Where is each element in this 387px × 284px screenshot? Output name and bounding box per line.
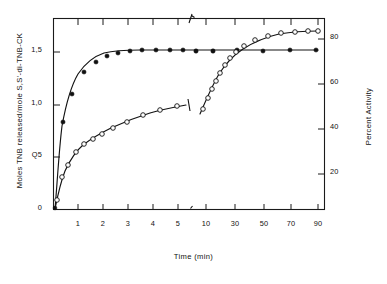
series-filled-points bbox=[53, 48, 318, 210]
plot-canvas bbox=[0, 0, 387, 284]
figure-container: Moles TNB released/mole S,S'-di-TNB-CK P… bbox=[0, 0, 387, 284]
x-axis-ticks-top bbox=[78, 19, 318, 25]
series-open-curve-left bbox=[55, 105, 186, 209]
series-filled-curve bbox=[55, 50, 318, 209]
series-open-left-terminator bbox=[188, 99, 190, 111]
series-open-points-right bbox=[201, 29, 321, 112]
axis-break-marker-bottom bbox=[191, 206, 193, 209]
series-open-points-left bbox=[55, 104, 180, 203]
plot-frame bbox=[54, 19, 325, 210]
